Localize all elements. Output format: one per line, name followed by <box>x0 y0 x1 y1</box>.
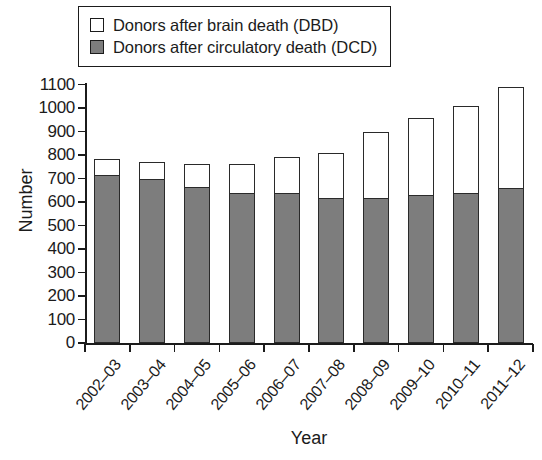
x-tick-9 <box>487 344 489 352</box>
bar-dcd-2004–05 <box>184 187 210 343</box>
x-tick-1 <box>129 344 131 352</box>
y-tick-900 <box>78 131 86 133</box>
x-tick-4 <box>263 344 265 352</box>
x-tick-0 <box>84 344 86 352</box>
y-tick-label-0: 0 <box>5 333 75 353</box>
y-tick-200 <box>78 295 86 297</box>
bar-dcd-2009–10 <box>408 195 434 343</box>
x-tick-7 <box>398 344 400 352</box>
y-tick-100 <box>78 319 86 321</box>
y-axis-line <box>85 83 87 345</box>
bar-dcd-2007–08 <box>318 198 344 343</box>
y-tick-1100 <box>78 84 86 86</box>
x-tick-2 <box>174 344 176 352</box>
y-tick-300 <box>78 272 86 274</box>
y-tick-label-200: 200 <box>5 286 75 306</box>
plot-area: 110010009008007006005004003002001000 200… <box>0 0 542 460</box>
x-axis-title: Year <box>85 428 533 449</box>
y-tick-label-1000: 1000 <box>5 98 75 118</box>
y-tick-500 <box>78 225 86 227</box>
bar-dcd-2003–04 <box>139 179 165 344</box>
y-tick-600 <box>78 201 86 203</box>
bar-dcd-2008–09 <box>363 198 389 343</box>
y-axis-title: Number <box>16 131 37 271</box>
bar-dcd-2006–07 <box>274 193 300 343</box>
y-tick-700 <box>78 178 86 180</box>
y-tick-label-100: 100 <box>5 310 75 330</box>
x-tick-5 <box>308 344 310 352</box>
y-tick-1000 <box>78 107 86 109</box>
y-tick-800 <box>78 154 86 156</box>
donor-numbers-chart-figure: Donors after brain death (DBD) Donors af… <box>0 0 542 460</box>
y-axis-tick-labels: 110010009008007006005004003002001000 <box>0 0 75 460</box>
y-tick-label-1100: 1100 <box>5 75 75 95</box>
x-tick-3 <box>219 344 221 352</box>
x-tick-6 <box>353 344 355 352</box>
x-tick-8 <box>443 344 445 352</box>
bar-dcd-2010–11 <box>453 193 479 343</box>
bar-dcd-2005–06 <box>229 193 255 343</box>
y-tick-400 <box>78 248 86 250</box>
bar-dcd-2011–12 <box>498 188 524 343</box>
x-tick-10 <box>532 344 534 352</box>
bar-dcd-2002–03 <box>94 175 120 343</box>
